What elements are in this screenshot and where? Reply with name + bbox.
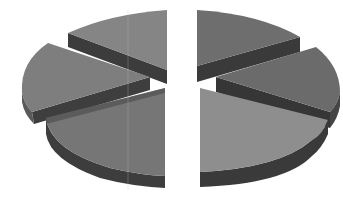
pie-chart-3d	[0, 0, 343, 197]
pie-chart-canvas	[0, 0, 343, 197]
